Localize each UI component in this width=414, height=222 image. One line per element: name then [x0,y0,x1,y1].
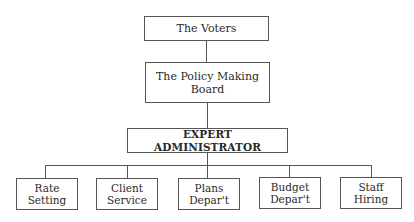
node-plans-department-line2: Depar't [189,194,229,207]
connector-horizontal-bus [45,165,372,166]
node-staff-hiring-line2: Hiring [354,193,388,206]
node-plans-department-line1: Plans [189,182,229,195]
node-voters: The Voters [144,16,269,41]
node-rate-setting-line1: Rate [28,182,67,195]
node-budget-department: Budget Depar't [259,177,321,209]
connector-bus-client [127,165,128,178]
node-rate-setting: Rate Setting [16,178,78,210]
node-voters-label: The Voters [177,22,237,35]
node-client-service: Client Service [96,178,158,210]
node-client-service-line2: Service [107,194,147,207]
node-expert-administrator: EXPERT ADMINISTRATOR [127,128,288,153]
node-staff-hiring-line1: Staff [354,181,388,194]
connector-board-admin [207,102,208,128]
connector-bus-budget [289,165,290,177]
connector-bus-plans [207,165,208,178]
connector-admin-bus [207,152,208,165]
node-expert-administrator-label: EXPERT ADMINISTRATOR [128,128,287,154]
connector-voters-board [206,40,207,62]
connector-bus-staff [371,165,372,177]
node-policy-board-label: The Policy Making Board [146,70,269,96]
node-budget-department-line2: Depar't [270,193,310,206]
connector-bus-rate [45,165,46,178]
node-staff-hiring: Staff Hiring [340,177,402,209]
node-rate-setting-line2: Setting [28,194,67,207]
node-client-service-line1: Client [107,182,147,195]
node-budget-department-line1: Budget [270,181,310,194]
node-policy-board: The Policy Making Board [145,62,270,103]
node-plans-department: Plans Depar't [178,178,240,210]
